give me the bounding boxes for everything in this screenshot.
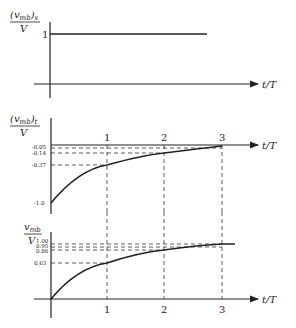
y-label-numerator: vmb <box>24 221 41 234</box>
x-tick-3: 3 <box>219 132 225 143</box>
y-label-numerator: (vmb)s <box>10 9 39 22</box>
y-tick-neg1: -1.0 <box>34 200 45 206</box>
x-axis-label: t/T <box>262 294 277 305</box>
panel-steady-state: (vmb)s V t/T 1 <box>10 9 277 98</box>
x-tick-2: 2 <box>161 132 167 143</box>
y-tick-neg014: -0.14 <box>32 150 47 156</box>
y-tick-086: 0.86 <box>36 248 49 254</box>
transient-curve <box>51 146 222 203</box>
x-tick-1: 1 <box>104 304 110 315</box>
panel-total: vmb V t/T 1 2 3 1.00 0.95 0.86 0.63 <box>24 212 277 318</box>
y-label-denominator: V <box>20 23 29 34</box>
y-tick-1: 1 <box>42 29 48 40</box>
x-tick-1: 1 <box>104 132 110 143</box>
y-label-numerator: (vmb)t <box>10 113 38 126</box>
x-axis-label: t/T <box>262 140 277 151</box>
panel-transient: (vmb)t V t/T 1 2 3 -0.05 -0.14 -0.37 -1.… <box>10 113 277 215</box>
response-diagram: (vmb)s V t/T 1 (vmb)t V t/T 1 2 3 -0.05 … <box>0 0 296 328</box>
y-tick-neg037: -0.37 <box>32 162 47 168</box>
total-response-curve <box>51 244 235 299</box>
y-tick-063: 0.63 <box>34 260 47 266</box>
y-label-denominator: V <box>20 127 29 138</box>
x-tick-2: 2 <box>161 304 167 315</box>
x-tick-3: 3 <box>219 304 225 315</box>
x-axis-label: t/T <box>262 79 277 90</box>
